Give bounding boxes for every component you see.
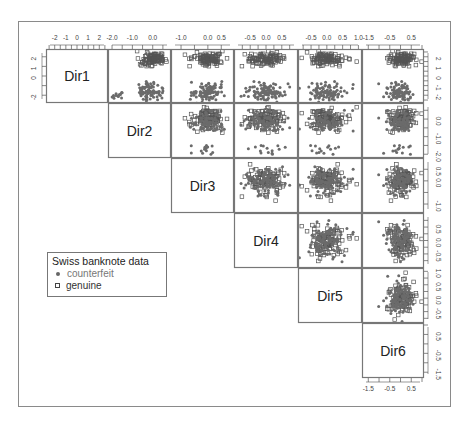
top-axis-tick-label: -2.0 [106, 34, 118, 41]
filled-circle-marker-icon [56, 272, 60, 276]
scatter-panel-dir1-vs-dir6 [363, 49, 424, 105]
left-axis-tick-label: 2 [30, 57, 37, 61]
top-axis-tick-label: 0.0 [203, 34, 212, 41]
top-axis-tick-label: -0.5 [384, 34, 396, 41]
open-square-marker-icon [55, 283, 60, 288]
bottom-axis-tick-label: -0.5 [384, 385, 396, 392]
scatter-panel-dir1-vs-dir2 [109, 49, 171, 105]
right-axis-tick-label: -1.0 [435, 133, 442, 145]
diagonal-panel-dir2: Dir2 [109, 104, 171, 158]
top-axis-tick-label: 0.0 [322, 34, 331, 41]
right-axis-tick-label: 0.0 [435, 178, 442, 187]
right-axis-tick-label: -0.5 [435, 350, 442, 362]
legend-item-genuine: genuine [52, 280, 162, 292]
right-axis-tick-label: 2 [435, 57, 442, 61]
diagonal-label: Dir1 [64, 68, 90, 84]
diagonal-label: Dir5 [317, 288, 343, 304]
top-axis-tick-label: -0.5 [305, 34, 317, 41]
scatter-panel-dir3-vs-dir6 [363, 159, 424, 213]
diagonal-panel-dir3: Dir3 [172, 159, 234, 213]
diagonal-label: Dir2 [127, 123, 153, 139]
top-axis-tick-label: -2 [52, 34, 58, 41]
top-axis-tick-label: 0.0 [261, 34, 270, 41]
right-axis-tick-label: 1 [435, 67, 442, 71]
top-axis-tick-label: -1.0 [127, 34, 139, 41]
top-axis-tick-label: -1.5 [363, 34, 375, 41]
right-axis-tick-label: -1.5 [435, 369, 442, 381]
right-axis-tick-label: -2.0 [435, 151, 442, 163]
top-axis-tick-label: 0.5 [407, 34, 416, 41]
diagonal-panel-dir4: Dir4 [235, 214, 298, 268]
scatter-panel-dir2-vs-dir6 [363, 104, 424, 158]
legend-label: counterfeit [67, 268, 114, 280]
legend: Swiss banknote data counterfeit genuine [47, 252, 167, 297]
right-axis-tick-label: 0.5 [435, 167, 442, 176]
left-axis-tick-label: 1 [30, 66, 37, 70]
diagonal-label: Dir4 [253, 233, 279, 249]
diagonal-label: Dir3 [190, 178, 216, 194]
bottom-axis-tick-label: 0.5 [407, 385, 416, 392]
legend-label: genuine [66, 280, 102, 292]
left-axis-tick-label: -2 [30, 94, 37, 100]
left-axis-tick-label: 0 [30, 76, 37, 80]
bottom-axis-tick-label: -1.5 [363, 385, 375, 392]
top-axis-tick-label: -1.0 [175, 34, 187, 41]
top-axis-tick-label: 2 [97, 34, 101, 41]
right-axis-tick-label: 0.5 [435, 332, 442, 341]
diagonal-panel-dir1: Dir1 [47, 50, 108, 103]
right-axis-tick-label: 0.0 [435, 296, 442, 305]
scatter-panel-dir5-vs-dir6 [363, 269, 424, 328]
right-axis-tick-label: 0.5 [435, 282, 442, 291]
top-axis-tick-label: 0 [75, 34, 79, 41]
top-axis-tick-label: 0.5 [338, 34, 347, 41]
scatter-panel-dir2-vs-dir5 [292, 104, 361, 158]
legend-title: Swiss banknote data [52, 255, 162, 268]
right-axis-tick-label: -0.5 [435, 250, 442, 262]
scatterplot-matrix: Dir1Dir2Dir3Dir4Dir5Dir6-2-1012-2.0-1.00… [0, 0, 469, 423]
top-axis-tick-label: 1 [86, 34, 90, 41]
right-axis-tick-label: -2 [435, 94, 442, 100]
top-axis-tick-label: -0.5 [245, 34, 257, 41]
diagonal-panel-dir6: Dir6 [363, 324, 424, 378]
right-axis-tick-label: -1.0 [435, 200, 442, 212]
legend-item-counterfeit: counterfeit [52, 268, 162, 280]
scatter-panel-dir4-vs-dir5 [292, 214, 361, 275]
right-axis-tick-label: 0 [435, 76, 442, 80]
scatter-panel-dir4-vs-dir6 [363, 214, 424, 275]
diagonal-label: Dir6 [380, 343, 406, 359]
scatter-panel-dir1-vs-dir4 [226, 49, 297, 105]
top-axis-tick-label: -1 [63, 34, 69, 41]
scatter-panel-dir3-vs-dir5 [292, 159, 361, 213]
right-axis-tick-label: -0.5 [435, 308, 442, 320]
right-axis-tick-label: 0.5 [435, 225, 442, 234]
scatter-panel-dir1-vs-dir3 [172, 49, 234, 105]
scatter-panel-dir2-vs-dir4 [226, 104, 297, 158]
scatter-panel-dir2-vs-dir3 [172, 104, 234, 158]
top-axis-tick-label: 0.5 [277, 34, 286, 41]
diagonal-panel-dir5: Dir5 [299, 269, 362, 323]
top-axis-tick-label: 0.5 [217, 34, 226, 41]
top-axis-tick-label: 0.0 [148, 34, 157, 41]
right-axis-tick-label: 0.0 [435, 117, 442, 126]
right-axis-tick-label: -1 [435, 85, 442, 91]
right-axis-tick-label: 0.0 [435, 238, 442, 247]
scatter-panel-dir1-vs-dir5 [292, 49, 361, 105]
scatter-panel-dir3-vs-dir4 [226, 159, 297, 213]
right-axis-tick-label: 1.0 [435, 269, 442, 278]
